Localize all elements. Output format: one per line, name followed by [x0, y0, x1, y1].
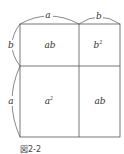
cell-ab-bottom: ab: [94, 96, 105, 106]
label-top-a: a: [45, 10, 50, 20]
label-top-b: b: [96, 11, 102, 21]
outer-square: [20, 24, 120, 137]
area-model-diagram: a b b a ab b2 a2 ab 図2-2: [0, 0, 124, 154]
label-left-a: a: [8, 96, 13, 106]
figure-caption: 図2-2: [20, 145, 41, 154]
cell-ab-top: ab: [44, 40, 55, 50]
cell-b-squared: b2: [94, 39, 103, 50]
label-left-b: b: [8, 40, 14, 50]
cell-a-squared: a2: [45, 95, 54, 106]
